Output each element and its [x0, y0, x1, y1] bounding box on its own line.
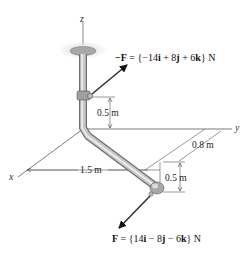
y-axis: y — [83, 122, 240, 133]
force-j-coef: + 8 — [161, 52, 177, 63]
dimension-label: 0.5 m — [165, 173, 187, 183]
y-axis-label: y — [234, 122, 240, 133]
force-eq: = {−14 — [127, 52, 158, 63]
x-axis: x — [8, 129, 83, 182]
dimension-label: 0.5 m — [97, 108, 119, 118]
x-axis-label: x — [8, 171, 14, 182]
force-unit: } N — [201, 52, 216, 63]
force-unit: } N — [187, 233, 202, 244]
dimension-horizontal-y: 0.8 m — [179, 131, 221, 161]
dimension-lower-vertical: 0.5 m — [165, 163, 187, 191]
z-axis-label: z — [79, 13, 84, 24]
dimension-upper-vertical: 0.5 m — [90, 97, 119, 128]
force-k-coef: − 6 — [165, 233, 181, 244]
force-arrow-negative-f — [92, 65, 127, 94]
dimension-label: 0.8 m — [192, 140, 214, 150]
force-label-negative-f: −F = {−14i + 8j + 6k} N — [115, 52, 215, 63]
z-axis: z — [79, 13, 84, 45]
force-arrow-f — [119, 196, 150, 228]
dimension-label: 1.5 m — [80, 165, 102, 175]
force-j-coef: − 8 — [146, 233, 162, 244]
force-label-f: F = {14i − 8j − 6k} N — [112, 233, 201, 244]
pipe-collar — [77, 91, 93, 100]
force-eq: = {14 — [118, 233, 143, 244]
force-k-coef: + 6 — [180, 52, 196, 63]
pipe-force-diagram: z y x 0.5 m 0.8 m 1.5 m — [0, 0, 251, 255]
